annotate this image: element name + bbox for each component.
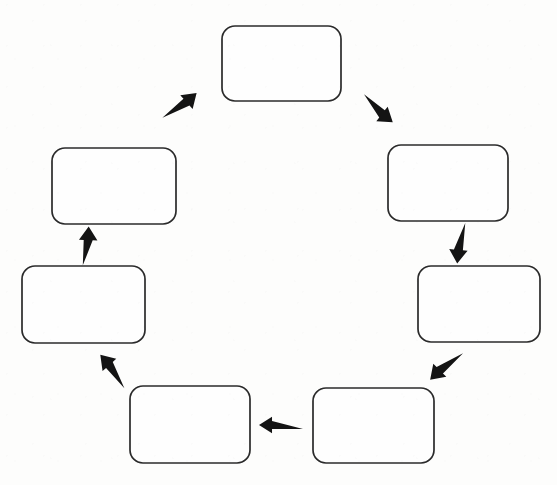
- node-bottom-right[interactable]: [313, 388, 434, 463]
- node-bottom-left-shape[interactable]: [130, 386, 250, 463]
- node-bottom-right-shape[interactable]: [313, 388, 434, 463]
- arrow-lower-left-to-upper-left: [78, 226, 98, 266]
- node-lower-left[interactable]: [22, 266, 145, 343]
- diagram-canvas: [0, 0, 557, 485]
- arrow-upper-right-to-lower-right: [448, 222, 470, 264]
- arrow-top-to-upper-right: [356, 90, 399, 129]
- arrow-bottom-right-to-bottom-left: [259, 417, 303, 433]
- arrow-upper-left-to-top: [159, 86, 203, 128]
- node-lower-right[interactable]: [418, 266, 540, 342]
- arrow-bottom-left-to-lower-left: [93, 349, 134, 392]
- node-top-shape[interactable]: [222, 26, 341, 101]
- node-lower-left-shape[interactable]: [22, 266, 145, 343]
- node-lower-right-shape[interactable]: [418, 266, 540, 342]
- node-bottom-left[interactable]: [130, 386, 250, 463]
- node-upper-right-shape[interactable]: [388, 145, 508, 221]
- arrows-layer: [78, 86, 470, 433]
- node-top[interactable]: [222, 26, 341, 101]
- arrow-lower-right-to-bottom-right: [424, 344, 467, 387]
- node-upper-right[interactable]: [388, 145, 508, 221]
- node-upper-left-shape[interactable]: [52, 148, 176, 224]
- node-upper-left[interactable]: [52, 148, 176, 224]
- cycle-diagram-svg: [0, 0, 557, 485]
